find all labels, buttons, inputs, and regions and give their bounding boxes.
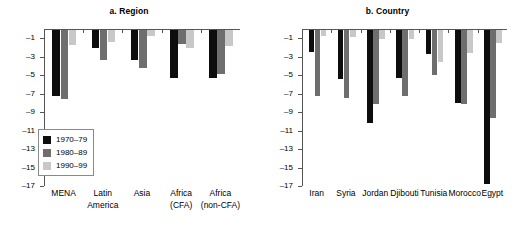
y-tick: –3 — [298, 57, 302, 58]
x-axis-labels-country: IranSyriaJordanDjiboutiTunisiaMoroccoEgy… — [302, 188, 507, 226]
y-tick: –13 — [298, 149, 302, 150]
bar — [455, 30, 461, 103]
y-tick-label: –5 — [26, 71, 35, 79]
legend-label: 1990–99 — [56, 162, 87, 170]
x-axis-labels-region: MENALatinAmericaAsiaAfrica(CFA)Africa(no… — [44, 188, 240, 226]
y-tick: –15 — [298, 168, 302, 169]
y-tick-label: –1 — [284, 34, 293, 42]
y-tick-label: –15 — [280, 164, 293, 172]
y-tick-label: –11 — [280, 127, 293, 135]
bar — [467, 30, 473, 53]
bar — [344, 30, 350, 98]
legend-item: 1990–99 — [43, 159, 87, 172]
panel-a-title: a. Region — [0, 6, 258, 16]
bar — [409, 30, 415, 39]
bar — [100, 30, 108, 60]
category-label-line: Tunisia — [419, 188, 448, 200]
category-label-line: Africa — [201, 188, 240, 200]
category-label-line: MENA — [44, 188, 83, 200]
y-tick-label: –13 — [280, 145, 293, 153]
y-tick-label: –9 — [26, 108, 35, 116]
y-tick: –3 — [40, 57, 44, 58]
category-label-line: Iran — [302, 188, 331, 200]
category-label-line: (non-CFA) — [201, 200, 240, 212]
bar — [217, 30, 225, 74]
bar-group-container-country — [303, 30, 507, 186]
y-tick: –7 — [40, 94, 44, 95]
bar — [309, 30, 315, 52]
bar — [139, 30, 147, 68]
bar — [432, 30, 438, 75]
bar — [147, 30, 155, 36]
legend-item: 1980–89 — [43, 146, 87, 159]
y-tick-label: –3 — [26, 53, 35, 61]
x-axis-category-label: Jordan — [361, 188, 390, 200]
bar — [373, 30, 379, 104]
category-label-line: Jordan — [361, 188, 390, 200]
y-tick: –9 — [40, 112, 44, 113]
y-tick: –17 — [298, 186, 302, 187]
panel-country: b. Country –1–3–5–7–9–11–13–15–17 IranSy… — [258, 0, 517, 228]
y-tick-label: –7 — [26, 90, 35, 98]
legend-label: 1970–79 — [56, 136, 87, 144]
y-tick-label: –1 — [26, 34, 35, 42]
x-axis-category-label: Morocco — [448, 188, 477, 200]
y-tick: –11 — [298, 131, 302, 132]
bar — [131, 30, 139, 60]
legend-item: 1970–79 — [43, 133, 87, 146]
bar — [108, 30, 116, 42]
y-tick-label: –15 — [22, 164, 35, 172]
bar — [426, 30, 432, 54]
legend-region: 1970–791980–891990–99 — [38, 129, 94, 176]
bar — [461, 30, 467, 104]
legend-label: 1980–89 — [56, 149, 87, 157]
bar — [321, 30, 327, 36]
legend-swatch — [43, 162, 51, 170]
category-label-line: Africa — [162, 188, 201, 200]
legend-swatch — [43, 149, 51, 157]
x-axis-category-label: Egypt — [478, 188, 507, 200]
y-tick: –5 — [298, 75, 302, 76]
plot-area-country: –1–3–5–7–9–11–13–15–17 — [302, 29, 507, 186]
bar — [490, 30, 496, 118]
bar — [338, 30, 344, 79]
bar — [69, 30, 77, 45]
bar — [209, 30, 217, 78]
bar — [496, 30, 502, 43]
y-tick-label: –17 — [22, 182, 35, 190]
panel-region: a. Region –1–3–5–7–9–11–13–15–17 MENALat… — [0, 0, 258, 228]
bar — [52, 30, 60, 96]
x-axis-category-label: Djibouti — [390, 188, 419, 200]
category-label-line: Morocco — [448, 188, 477, 200]
x-axis-category-label: MENA — [44, 188, 83, 200]
category-label-line: Latin — [83, 188, 122, 200]
category-label-line: America — [83, 200, 122, 212]
figure-two-panel-bar-chart: a. Region –1–3–5–7–9–11–13–15–17 MENALat… — [0, 0, 517, 228]
y-tick-label: –3 — [284, 53, 293, 61]
x-axis-category-label: Syria — [331, 188, 360, 200]
y-tick-label: –17 — [280, 182, 293, 190]
category-label-line: Djibouti — [390, 188, 419, 200]
x-axis-category-label: Iran — [302, 188, 331, 200]
y-tick-label: –5 — [284, 71, 293, 79]
y-tick: –9 — [298, 112, 302, 113]
bar — [92, 30, 100, 48]
x-axis-category-label: Tunisia — [419, 188, 448, 200]
bar — [438, 30, 444, 62]
y-tick-label: –11 — [22, 127, 35, 135]
y-tick-label: –13 — [22, 145, 35, 153]
y-tick: –5 — [40, 75, 44, 76]
bar — [350, 30, 356, 37]
y-tick-label: –7 — [284, 90, 293, 98]
y-tick: –1 — [298, 38, 302, 39]
bar — [186, 30, 194, 48]
bar — [402, 30, 408, 96]
category-label-line: (CFA) — [162, 200, 201, 212]
bar — [379, 30, 385, 39]
x-axis-category-label: Africa(CFA) — [162, 188, 201, 211]
x-axis-category-label: Asia — [122, 188, 161, 200]
x-axis-category-label: Africa(non-CFA) — [201, 188, 240, 211]
y-tick: –1 — [40, 38, 44, 39]
category-label-line: Syria — [331, 188, 360, 200]
category-label-line: Asia — [122, 188, 161, 200]
